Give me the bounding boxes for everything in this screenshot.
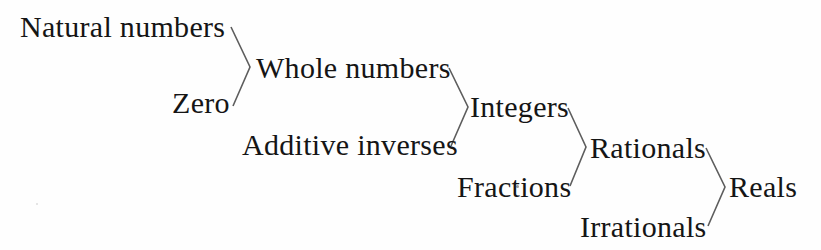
paper-speck-2 (36, 203, 38, 205)
node-integers: Integers (470, 92, 569, 122)
whole-numbers-bracket (231, 27, 250, 106)
node-rationals: Rationals (590, 133, 706, 163)
node-reals: Reals (729, 172, 797, 202)
node-zero: Zero (172, 88, 230, 118)
node-additive-inverses: Additive inverses (242, 130, 458, 160)
node-fractions: Fractions (457, 172, 571, 202)
node-natural-numbers: Natural numbers (20, 12, 225, 42)
node-whole-numbers: Whole numbers (256, 53, 451, 83)
reals-bracket (706, 148, 725, 226)
node-irrationals: Irrationals (580, 212, 707, 242)
number-systems-diagram: Natural numbers Zero Whole numbers Addit… (0, 0, 821, 250)
